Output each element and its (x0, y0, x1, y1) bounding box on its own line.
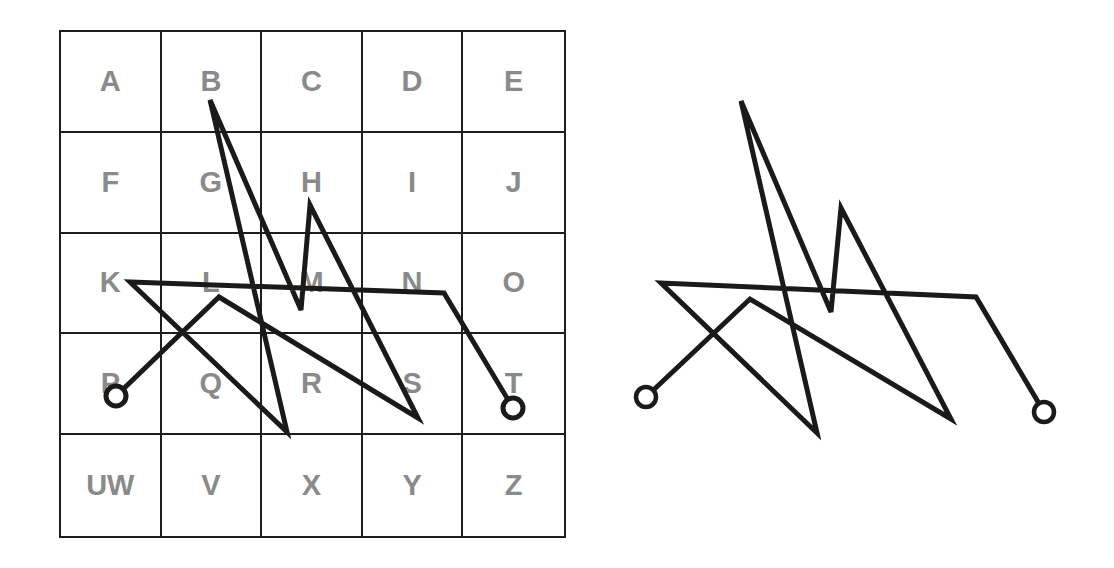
sigil-line (646, 101, 1044, 433)
end-circle-icon (503, 398, 523, 418)
sigil-diagram: A B C D E F G H I J K L M N O P Q R S T … (0, 0, 1114, 568)
traced-line (116, 100, 513, 432)
sigil-end-circle-icon (1034, 402, 1054, 422)
sigil-start-circle-icon (636, 387, 656, 407)
sigil-overlay (0, 0, 1114, 568)
standalone-sigil (636, 101, 1054, 433)
start-circle-icon (106, 386, 126, 406)
grid-trace-path (106, 100, 523, 432)
